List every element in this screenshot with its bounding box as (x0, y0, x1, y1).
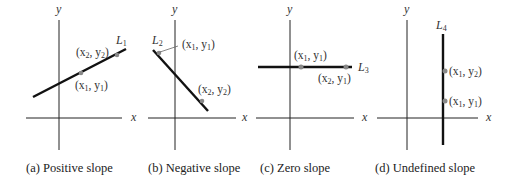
panel-positive-slope: y x L1 (x2, y2) (x1, y1) (a) Positive sl… (26, 2, 137, 175)
point-x1-y1 (443, 99, 448, 104)
y-axis-label: y (55, 2, 62, 16)
line-label-l3: L3 (357, 60, 369, 75)
point-x2-y1 (344, 65, 349, 70)
x-axis-label: x (485, 110, 492, 124)
point-x1-y1 (79, 71, 84, 76)
line-l2 (153, 50, 208, 111)
point-label-x2-y1: (x2, y1) (318, 72, 351, 86)
slope-figure: y x L1 (x2, y2) (x1, y1) (a) Positive sl… (0, 0, 506, 186)
point-label-x1-y1: (x1, y1) (449, 95, 482, 109)
x-axis-label: x (361, 110, 368, 124)
caption-negative-slope: (b) Negative slope (148, 161, 241, 175)
y-axis-label: y (403, 2, 410, 16)
panel-undefined-slope: y x L4 (x1, y2) (x1, y1) (d) Undefined s… (375, 2, 492, 175)
point-label-x1-y1: (x1, y1) (75, 79, 108, 93)
point-label-x2-y2: (x2, y2) (198, 83, 231, 97)
point-label-x1-y1: (x1, y1) (294, 49, 327, 63)
point-label-x2-y2: (x2, y2) (76, 46, 109, 60)
caption-positive-slope: (a) Positive slope (26, 161, 113, 175)
line-label-l1: L1 (115, 33, 127, 48)
point-label-x1-y1: (x1, y1) (182, 38, 215, 52)
caption-undefined-slope: (d) Undefined slope (375, 161, 475, 175)
x-axis-label: x (130, 110, 137, 124)
caption-zero-slope: (c) Zero slope (260, 161, 331, 175)
y-axis-label: y (171, 2, 178, 16)
line-label-l2: L2 (151, 33, 163, 48)
panel-negative-slope: y x L2 (x1, y1) (x2, y2) (b) Negative sl… (148, 2, 248, 175)
point-x1-y2 (443, 69, 448, 74)
point-x2-y2 (115, 53, 120, 58)
point-x2-y2 (200, 99, 205, 104)
x-axis-label: x (241, 110, 248, 124)
point-x1-y1 (299, 65, 304, 70)
point-label-x1-y2: (x1, y2) (449, 65, 482, 79)
line-label-l4: L4 (435, 18, 447, 33)
y-axis-label: y (286, 2, 293, 16)
panel-zero-slope: y x L3 (x1, y1) (x2, y1) (c) Zero slope (256, 2, 369, 175)
